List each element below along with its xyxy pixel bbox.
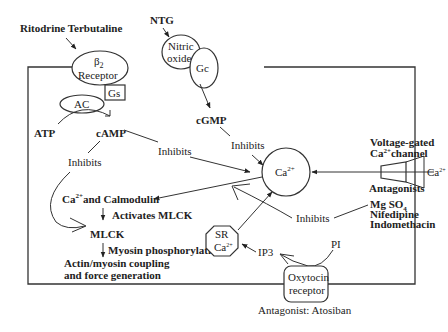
inhibits-lower-arrowhead [232,184,250,200]
cgmp-inhibits-arrow [252,155,263,165]
mlck-label: MLCK [90,228,125,240]
ip3-label: IP3 [258,246,274,258]
inhibits-camp-left-label: Inhibits [68,156,102,168]
svg-text:Gs: Gs [108,87,120,99]
ca-to-calmodulin-arrow [154,177,262,199]
oxytocin-receptor: Oxytocin receptor [284,266,329,302]
activates-mlck-label: Activates MLCK [112,209,193,221]
svg-text:AC: AC [74,98,89,110]
svg-text:Gc: Gc [196,62,209,74]
gs-protein: Gs [105,85,125,100]
svg-text:Oxytocin: Oxytocin [288,271,329,283]
indomethacin-label: Indomethacin [370,218,435,230]
antagonists-label: Antagonists [369,182,425,194]
cgmp-label: cGMP [196,114,227,126]
ip3-to-sr-arrow [242,244,256,252]
ca-calmodulin-label: Ca2+and Calmodulin [62,192,159,205]
ntg-label: NTG [150,14,174,26]
beta-agonists-label: Ritodrine Terbutaline [20,22,122,34]
force-generation-label: and force generation [64,269,161,281]
sarcoplasmic-reticulum: SR Ca2+ [206,226,238,256]
actin-myosin-label: Actin/myosin coupling [64,257,170,269]
pi-label: PI [331,238,341,250]
beta2-receptor: β2 Receptor [72,51,128,85]
inhibits-mlck-arrowhead [70,218,86,232]
guanylate-cyclase: Gc [190,48,218,88]
svg-text:Nitric: Nitric [168,40,194,52]
camp-label: cAMP [96,127,126,139]
atp-label: ATP [34,127,55,139]
extracellular-ca-label: Ca2+ [427,166,446,178]
camp-inhibits-ca-arrow [190,157,250,172]
svg-text:receptor: receptor [289,284,325,296]
beta-agonist-arrow [66,38,76,49]
intracellular-calcium: Ca2+ [262,148,310,196]
svg-text:oxide: oxide [167,52,192,64]
inhibits-camp-mid-label: Inhibits [158,145,192,157]
ca-channel-label: Ca2+channel [370,147,428,159]
uterine-contraction-pathway-diagram: Ritodrine Terbutaline β2 Receptor Gs AC … [0,0,448,332]
atosiban-label: Antagonist: Atosiban [258,304,352,316]
inhibits-lower-label: Inhibits [296,212,330,224]
inhibits-cgmp-label: Inhibits [231,139,265,151]
svg-text:SR: SR [215,228,229,240]
ntg-arrow [163,28,169,37]
svg-text:Receptor: Receptor [78,69,118,81]
